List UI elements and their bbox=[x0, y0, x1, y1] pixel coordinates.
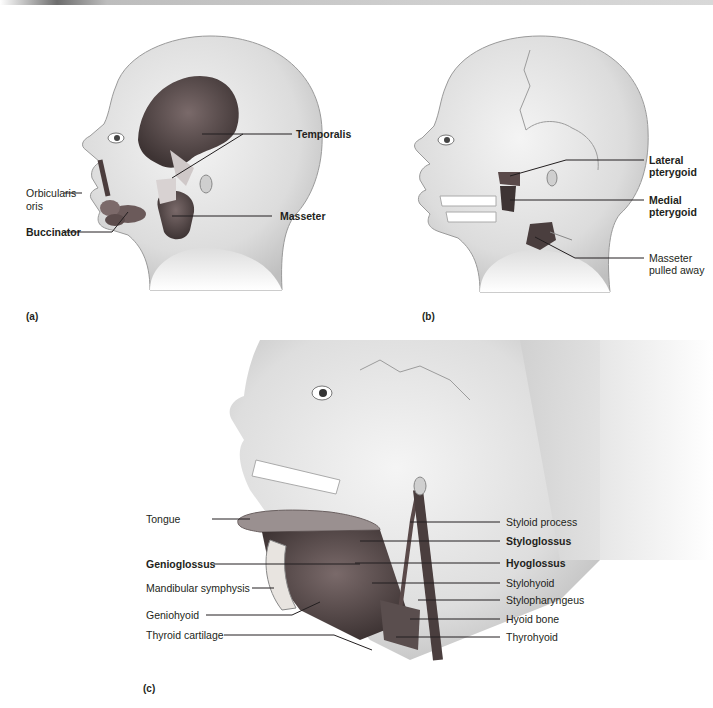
panel-a-head bbox=[64, 36, 322, 290]
label-tongue: Tongue bbox=[146, 513, 180, 525]
label-styloid-process: Styloid process bbox=[506, 516, 577, 528]
label-lateral-pterygoid-line2: pterygoid bbox=[649, 166, 697, 178]
label-geniohyoid: Geniohyoid bbox=[146, 609, 199, 621]
label-masseter-pulled-away-line2: pulled away bbox=[649, 264, 704, 276]
panel-b-tag: (b) bbox=[422, 311, 435, 322]
label-masseter-pulled-away-line1: Masseter bbox=[649, 252, 692, 264]
label-medial-pterygoid-line1: Medial bbox=[649, 194, 682, 206]
panel-a-tag: (a) bbox=[26, 311, 38, 322]
label-genioglossus: Genioglossus bbox=[146, 558, 215, 570]
panel-c-head bbox=[206, 340, 713, 660]
label-styloglossus: Styloglossus bbox=[506, 535, 571, 547]
label-stylohyoid: Stylohyoid bbox=[506, 577, 554, 589]
label-buccinator: Buccinator bbox=[26, 226, 81, 238]
label-hyoid-bone: Hyoid bone bbox=[506, 613, 559, 625]
label-temporalis: Temporalis bbox=[296, 128, 351, 140]
label-hyoglossus: Hyoglossus bbox=[506, 557, 566, 569]
label-lateral-pterygoid-line1: Lateral bbox=[649, 154, 683, 166]
label-orbicularis-oris-line2: oris bbox=[26, 200, 43, 212]
anatomy-illustration bbox=[0, 0, 713, 708]
label-orbicularis-oris-line1: Orbicularis bbox=[26, 187, 76, 199]
label-stylopharyngeus: Stylopharyngeus bbox=[506, 594, 584, 606]
label-medial-pterygoid-line2: pterygoid bbox=[649, 206, 697, 218]
panel-c-tag: (c) bbox=[143, 683, 155, 694]
panel-b-head bbox=[415, 36, 649, 292]
label-thyrohyoid: Thyrohyoid bbox=[506, 631, 558, 643]
label-mandibular-symphysis: Mandibular symphysis bbox=[146, 582, 250, 594]
label-masseter: Masseter bbox=[280, 210, 326, 222]
label-thyroid-cartilage: Thyroid cartilage bbox=[146, 629, 224, 641]
